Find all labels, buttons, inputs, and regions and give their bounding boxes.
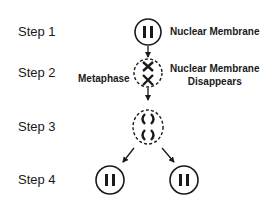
arrow-step3-to-left-daughter bbox=[123, 148, 134, 162]
arrow-step3-to-right-daughter bbox=[162, 148, 174, 162]
mitosis-diagram bbox=[0, 0, 276, 213]
daughter-cell-left-icon bbox=[96, 166, 124, 194]
nucleus-step1-icon bbox=[135, 19, 161, 45]
anaphase-cell-icon bbox=[133, 110, 163, 144]
metaphase-cell-icon bbox=[134, 59, 162, 87]
daughter-cell-right-icon bbox=[170, 166, 198, 194]
